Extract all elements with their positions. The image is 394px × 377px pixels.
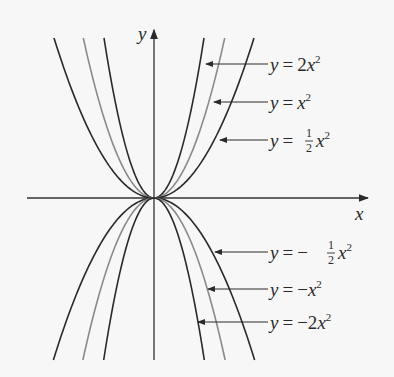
svg-text:1: 1 bbox=[328, 238, 334, 252]
svg-text:1: 1 bbox=[306, 126, 312, 140]
parabola-family-diagram: x y y=2x2 y=x2 y= 1 2 x2 y=− 1 2 x2 y=−x… bbox=[0, 0, 394, 377]
svg-text:x2: x2 bbox=[315, 129, 330, 151]
svg-text:y=: y= bbox=[268, 130, 293, 151]
svg-text:y=−: y=− bbox=[268, 242, 308, 263]
x-axis-label: x bbox=[354, 203, 364, 224]
svg-text:2: 2 bbox=[306, 141, 312, 155]
label-y-eq-neg-half-x2: y=− 1 2 x2 bbox=[268, 238, 352, 267]
label-y-eq-neg-x2: y=−x2 bbox=[268, 278, 322, 300]
label-y-eq-x2: y=x2 bbox=[268, 91, 311, 113]
label-y-eq-neg-2x2: y=−2x2 bbox=[268, 311, 331, 333]
svg-text:x2: x2 bbox=[337, 241, 352, 263]
y-axis-label: y bbox=[136, 23, 147, 44]
label-y-eq-half-x2: y= 1 2 x2 bbox=[268, 126, 330, 155]
label-y-eq-2x2: y=2x2 bbox=[268, 53, 321, 75]
svg-text:2: 2 bbox=[328, 253, 334, 267]
